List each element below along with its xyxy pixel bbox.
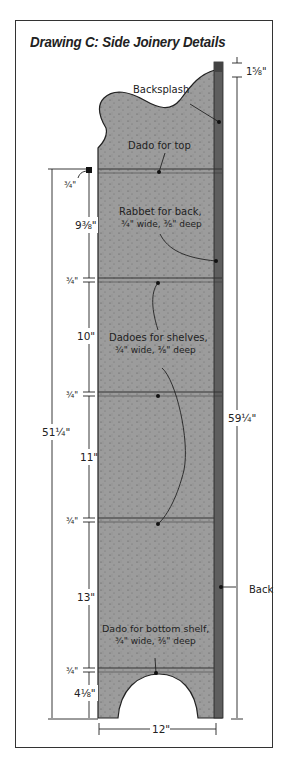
backsplash-label: Backsplash: [133, 84, 189, 95]
back-label: Back: [249, 584, 273, 595]
bottom-shelf-label-2: ¾" wide, ⅜" deep: [115, 636, 196, 646]
rabbet-label-1: Rabbet for back,: [119, 206, 202, 217]
side-board: [98, 70, 222, 718]
back-rabbet-edge: [214, 62, 223, 718]
inner-height-dimension: [48, 169, 98, 719]
total-height-dimension: [231, 57, 243, 719]
dado1-label: ¾": [64, 180, 76, 190]
top-overhang-label: 1⅝": [246, 66, 267, 77]
space4-label: 13": [77, 591, 95, 603]
dado5-label: ¾": [66, 666, 78, 676]
space5-label: 4⅛": [74, 687, 96, 699]
inner-height-label: 51¼": [42, 426, 70, 438]
back-top-cap: [214, 62, 223, 72]
dado2-label: ¾": [66, 276, 78, 286]
rabbet-label-2: ¾" wide, ⅜" deep: [121, 219, 202, 229]
shelves-label-1: Dadoes for shelves,: [109, 332, 208, 343]
bottom-shelf-label-1: Dado for bottom shelf,: [102, 623, 209, 634]
top-dado-marker: [86, 167, 92, 173]
space1-label: 9⅜": [75, 219, 97, 231]
shelf-spacing-dimensions: [78, 171, 95, 718]
total-height-label: 59¼": [228, 412, 256, 424]
dado4-label: ¾": [66, 516, 78, 526]
dado-top-label: Dado for top: [128, 140, 191, 151]
shelves-label-2: ¾" wide, ⅜" deep: [115, 345, 196, 355]
side-joinery-diagram: Backsplash Dado for top Rabbet for back,…: [0, 0, 291, 769]
space2-label: 10": [77, 330, 95, 342]
width-label: 12": [152, 723, 170, 735]
dado3-label: ¾": [66, 390, 78, 400]
space3-label: 11": [80, 451, 98, 463]
